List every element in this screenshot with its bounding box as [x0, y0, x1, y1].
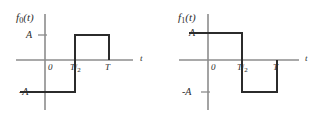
y-label-negative-a-f1: -A: [182, 87, 191, 97]
x-axis-label-f1: t: [305, 54, 308, 63]
y-label-positive-a-f0: A: [26, 30, 32, 40]
x-tick-label-half-period-f0: T/2: [70, 63, 81, 74]
x-tick-half-denominator-f1: 2: [244, 66, 248, 74]
function-label-f0: f0(t): [16, 12, 34, 25]
x-tick-half-denominator-f0: 2: [77, 66, 81, 74]
function-label-f1: f1(t): [178, 12, 196, 25]
waveform-f1: [189, 33, 277, 92]
function-label-f1-arg: (t): [185, 11, 195, 23]
x-tick-label-origin-f1: 0: [211, 63, 216, 72]
plot-panel-f1: f1(t) A -A 0 T/2 T t: [165, 0, 330, 119]
y-label-positive-a-f1: A: [189, 28, 195, 38]
x-tick-label-origin-f0: 0: [48, 63, 53, 72]
y-label-negative-a-f0: -A: [19, 87, 28, 97]
x-tick-label-period-f1: T: [273, 63, 278, 72]
waveform-f0: [20, 35, 109, 92]
plot-panel-f0: f0(t) A -A 0 T/2 T t: [0, 0, 165, 119]
square-wave-figure-pair: f0(t) A -A 0 T/2 T t f1(t) A -A: [0, 0, 330, 119]
function-label-f0-arg: (t): [23, 11, 33, 23]
x-tick-label-half-period-f1: T/2: [237, 63, 248, 74]
x-tick-label-period-f0: T: [105, 63, 110, 72]
x-axis-label-f0: t: [140, 54, 143, 63]
